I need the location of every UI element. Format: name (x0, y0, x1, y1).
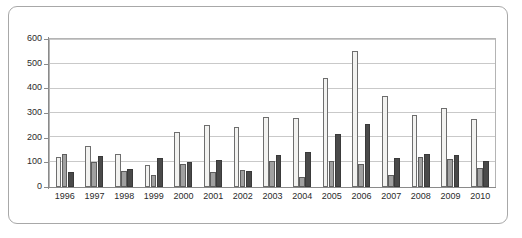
y-tick-label: 500 (2, 59, 42, 68)
bar-1998-series-1 (115, 154, 121, 187)
bar-2002-series-1 (234, 127, 240, 187)
bar-2003-series-1 (263, 117, 269, 187)
bar-2010-series-3 (483, 161, 489, 187)
y-tick-label: 0 (2, 182, 42, 191)
bar-2000-series-1 (174, 132, 180, 187)
x-tick-label: 2007 (376, 191, 406, 202)
y-tick-mark (44, 64, 49, 65)
y-tick-label: 300 (2, 108, 42, 117)
x-tick-label: 1998 (109, 191, 139, 202)
bar-group (352, 39, 370, 187)
bar-2005-series-1 (323, 78, 329, 187)
x-axis-line (49, 187, 496, 188)
x-tick-label: 2003 (258, 191, 288, 202)
bar-group (145, 39, 163, 187)
bar-1996-series-1 (56, 157, 62, 187)
bar-group (85, 39, 103, 187)
bar-1999-series-3 (157, 158, 163, 187)
bar-2005-series-3 (335, 134, 341, 187)
bar-1996-series-2 (62, 154, 68, 187)
x-tick-label: 1999 (139, 191, 169, 202)
bar-2007-series-3 (394, 158, 400, 187)
x-tick-label: 2008 (406, 191, 436, 202)
x-tick-label: 2002 (228, 191, 258, 202)
bar-2009-series-1 (441, 108, 447, 187)
bar-group (56, 39, 74, 187)
bar-group (412, 39, 430, 187)
bar-2001-series-2 (210, 172, 216, 187)
bar-2008-series-3 (424, 154, 430, 187)
bar-2007-series-1 (382, 96, 388, 187)
bar-2000-series-3 (187, 162, 193, 187)
bar-1998-series-2 (121, 171, 127, 187)
bar-2002-series-3 (246, 171, 252, 187)
bar-group (234, 39, 252, 187)
bar-2010-series-2 (477, 168, 483, 187)
bar-2003-series-3 (276, 155, 282, 187)
x-tick-label: 2010 (465, 191, 495, 202)
x-tick-label: 1996 (50, 191, 80, 202)
bar-group (323, 39, 341, 187)
y-tick-mark (44, 162, 49, 163)
bar-group (293, 39, 311, 187)
bar-2004-series-3 (305, 152, 311, 187)
bar-group (263, 39, 281, 187)
y-tick-mark (44, 138, 49, 139)
bar-1997-series-2 (91, 162, 97, 187)
x-tick-label: 2009 (436, 191, 466, 202)
y-tick-mark (44, 187, 49, 188)
bar-2004-series-1 (293, 118, 299, 187)
x-axis-labels: 1996199719981999200020012002200320042005… (50, 191, 495, 205)
bar-1998-series-3 (127, 169, 133, 187)
y-tick-label: 400 (2, 83, 42, 92)
y-tick-label: 600 (2, 34, 42, 43)
x-tick-label: 1997 (80, 191, 110, 202)
bar-2002-series-2 (240, 170, 246, 187)
bar-2009-series-2 (447, 159, 453, 187)
x-tick-label: 2000 (169, 191, 199, 202)
bar-2006-series-1 (352, 51, 358, 187)
chart-figure: 0100200300400500600 19961997199819992000… (0, 0, 522, 238)
y-tick-mark (44, 113, 49, 114)
bar-group (382, 39, 400, 187)
bar-2003-series-2 (269, 161, 275, 187)
y-tick-mark (44, 88, 49, 89)
bars-layer (50, 39, 495, 187)
bar-1999-series-2 (151, 175, 157, 187)
y-tick-label: 100 (2, 157, 42, 166)
y-axis-labels: 0100200300400500600 (0, 0, 42, 238)
bar-2004-series-2 (299, 177, 305, 187)
bar-group (115, 39, 133, 187)
x-tick-label: 2001 (198, 191, 228, 202)
x-tick-label: 2005 (317, 191, 347, 202)
bar-1999-series-1 (145, 165, 151, 187)
x-tick-label: 2006 (347, 191, 377, 202)
bar-2001-series-3 (216, 160, 222, 187)
bar-1997-series-3 (98, 156, 104, 187)
bar-2000-series-2 (180, 164, 186, 187)
bar-2006-series-2 (358, 164, 364, 187)
bar-1997-series-1 (85, 146, 91, 187)
bar-2007-series-2 (388, 175, 394, 187)
y-tick-mark (44, 39, 49, 40)
x-tick-label: 2004 (287, 191, 317, 202)
bar-2010-series-1 (471, 119, 477, 187)
bar-group (174, 39, 192, 187)
bar-group (441, 39, 459, 187)
bar-group (471, 39, 489, 187)
bar-2005-series-2 (329, 161, 335, 187)
bar-1996-series-3 (68, 172, 74, 187)
bar-2008-series-2 (418, 157, 424, 187)
bar-2006-series-3 (365, 124, 371, 187)
bar-group (204, 39, 222, 187)
bar-2001-series-1 (204, 125, 210, 187)
y-tick-label: 200 (2, 133, 42, 142)
bar-2009-series-3 (454, 155, 460, 187)
bar-2008-series-1 (412, 115, 418, 187)
